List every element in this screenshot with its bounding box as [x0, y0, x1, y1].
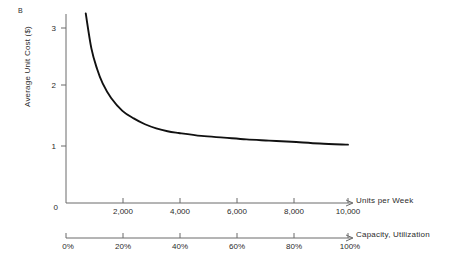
cost-curve	[86, 13, 348, 144]
x-tick-label-6000: 6,000	[227, 207, 248, 216]
chart-figure: B Average Unit Cost ($) 3 2 1 0 2,000 4,…	[0, 0, 459, 266]
x-tick-label-8000: 8,000	[284, 207, 305, 216]
plot-area: 3 2 1 0 2,000 4,000 6,000 8,000 10,000 U…	[0, 0, 459, 266]
capacity-tick-label-20: 20%	[115, 242, 131, 251]
y-tick-label-3: 3	[52, 24, 57, 33]
x-tick-label-10000: 10,000	[336, 207, 361, 216]
x-tick-label-2000: 2,000	[113, 207, 134, 216]
capacity-tick-label-100: 100%	[340, 242, 360, 251]
secondary-x-axis-title: Capacity, Utilization	[356, 230, 430, 239]
x-axis-title: Units per Week	[356, 196, 414, 205]
capacity-tick-label-80: 80%	[286, 242, 302, 251]
capacity-tick-label-40: 40%	[172, 242, 188, 251]
y-tick-label-2: 2	[52, 81, 57, 90]
x-tick-label-4000: 4,000	[170, 207, 191, 216]
capacity-tick-label-60: 60%	[229, 242, 245, 251]
capacity-tick-label-0: 0%	[62, 242, 74, 251]
y-tick-label-0: 0	[54, 203, 59, 212]
y-tick-label-1: 1	[52, 142, 57, 151]
